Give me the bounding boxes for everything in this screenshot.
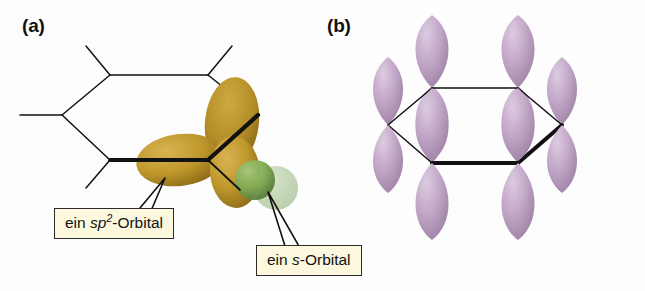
callout-s-orbital: ein s-Orbital [256, 245, 362, 276]
p-orbital-lobe-dn-6 [502, 163, 535, 240]
callout-s-suffix: -Orbital [300, 251, 351, 268]
panel-b-ring-bonds-thick [432, 125, 562, 163]
p-orbital-lobe-dn-1 [373, 125, 403, 193]
p-orbital-lobe-up-2 [416, 15, 449, 88]
callout-sp2-prefix: ein [65, 214, 90, 231]
panel-b-ring-bonds-thin [388, 88, 562, 163]
p-orbital-lobe-up-4 [547, 57, 577, 125]
p-orbital-lobe-dn-3 [502, 88, 535, 161]
callout-sp2-italic: sp [90, 214, 106, 231]
panel-b-artwork [373, 15, 577, 240]
callout-s-prefix: ein [267, 251, 292, 268]
p-orbital-lobe-up-3 [502, 15, 535, 88]
p-orbital-lobe-dn-5 [416, 163, 449, 240]
callout-s-italic: s [292, 251, 300, 268]
p-orbital-lobe-up-1 [373, 57, 403, 125]
callout-sp2-orbital: ein sp2-Orbital [54, 208, 174, 239]
callout-sp2-suffix: -Orbital [112, 214, 163, 231]
p-orbital-lobe-dn-2 [416, 88, 449, 161]
orbital-figure: (a) (b) [0, 0, 645, 291]
